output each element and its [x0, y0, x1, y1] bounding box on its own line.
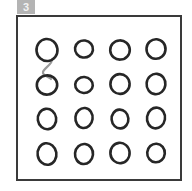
drawing-frame — [16, 15, 182, 181]
drawing-stage: 3 — [0, 0, 192, 191]
panel-index-badge: 3 — [17, 0, 35, 14]
